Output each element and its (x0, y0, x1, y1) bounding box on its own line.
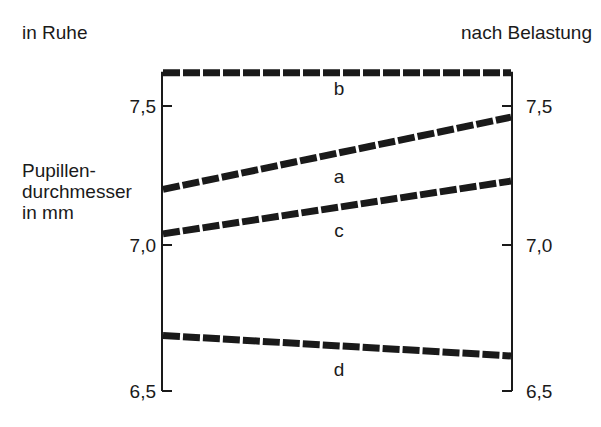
series-label-c: c (334, 220, 344, 241)
pupil-diameter-chart: 6,56,57,07,07,57,5bacd (0, 0, 601, 427)
right-tick-label: 7,0 (526, 235, 552, 256)
series-line-d (163, 336, 511, 356)
left-tick-label: 7,0 (130, 235, 156, 256)
right-tick-label: 7,5 (526, 96, 552, 117)
right-tick-label: 6,5 (526, 381, 552, 402)
left-tick-label: 7,5 (130, 96, 156, 117)
left-tick-label: 6,5 (130, 381, 156, 402)
series-label-b: b (334, 78, 345, 99)
series-label-d: d (334, 359, 345, 380)
series-label-a: a (334, 166, 345, 187)
